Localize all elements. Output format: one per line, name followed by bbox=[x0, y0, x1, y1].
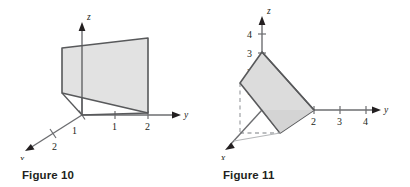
y-tick-label-3: 3 bbox=[337, 116, 342, 127]
plane-guide-line-lower bbox=[234, 133, 280, 141]
z-axis-label: z bbox=[86, 12, 91, 22]
x-axis-arrowhead bbox=[225, 143, 235, 150]
x-axis-arrowhead bbox=[25, 144, 35, 151]
z-tick-label-4: 4 bbox=[247, 29, 252, 40]
figure-11-panel: z 1 2 3 4 y 1 2 bbox=[205, 0, 410, 187]
figure-10-diagram: z y 1 2 x 1 2 bbox=[0, 0, 205, 160]
figure-11-caption: Figure 11 bbox=[223, 169, 274, 181]
x-axis-label: x bbox=[19, 154, 25, 160]
x-axis-line bbox=[230, 110, 262, 145]
x-tick-label-1: 1 bbox=[72, 125, 77, 136]
y-axis-arrowhead bbox=[372, 107, 381, 114]
y-axis-label: y bbox=[183, 110, 189, 120]
figure-11-diagram: z 1 2 3 4 y 1 2 bbox=[205, 0, 410, 160]
figure-10-panel: z y 1 2 x 1 2 bbox=[0, 0, 205, 187]
x-tick-2 bbox=[50, 129, 56, 138]
y-tick-label-2: 2 bbox=[145, 121, 150, 132]
figure-10-caption: Figure 10 bbox=[22, 169, 74, 181]
y-axis-label: y bbox=[383, 105, 389, 115]
figure-pair-page: z y 1 2 x 1 2 bbox=[0, 0, 410, 187]
x-axis-group-fig10: x 1 2 bbox=[19, 111, 85, 161]
plane-surface bbox=[62, 38, 148, 113]
z-axis-arrowhead bbox=[79, 22, 86, 31]
y-tick-label-4: 4 bbox=[363, 116, 368, 127]
y-axis-arrowhead bbox=[172, 112, 181, 119]
z-axis-label: z bbox=[266, 6, 271, 16]
x-tick-label-2: 2 bbox=[52, 141, 57, 152]
plane-y-equals-2 bbox=[62, 38, 148, 115]
y-tick-label-1: 1 bbox=[112, 121, 117, 132]
z-tick-label-3: 3 bbox=[247, 48, 252, 59]
x-axis-group-fig11: x bbox=[220, 110, 262, 160]
x-axis-label: x bbox=[220, 153, 226, 160]
z-axis-arrowhead bbox=[259, 16, 266, 25]
y-tick-label-2: 2 bbox=[311, 116, 316, 127]
